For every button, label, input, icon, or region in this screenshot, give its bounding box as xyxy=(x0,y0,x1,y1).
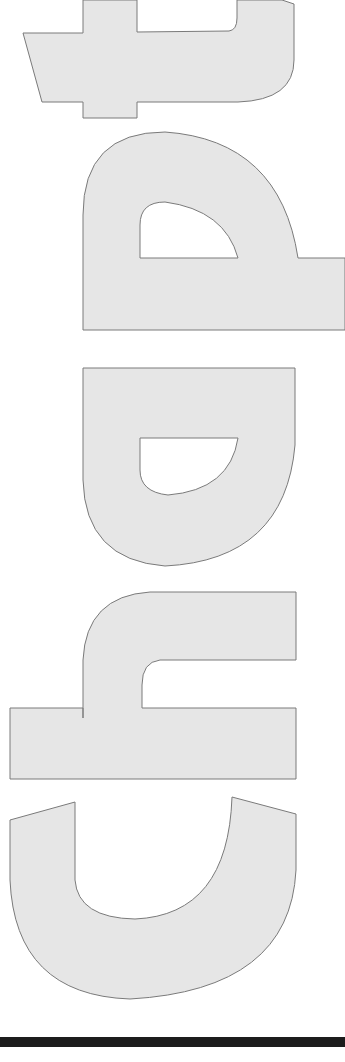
book-page: chapt xyxy=(0,0,345,1062)
chapter-heading-graphic xyxy=(0,0,345,1062)
letter-t xyxy=(23,0,294,118)
letter-c xyxy=(10,797,296,999)
letter-h xyxy=(10,592,296,779)
horizontal-rule xyxy=(0,1037,345,1047)
